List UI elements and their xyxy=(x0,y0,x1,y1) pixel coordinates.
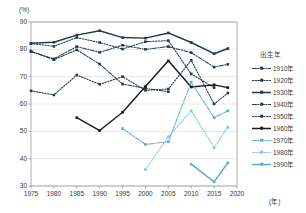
legend-item[interactable]: 1910年 xyxy=(252,62,306,74)
data-point-marker xyxy=(30,90,33,93)
legend-item-label: 1920年 xyxy=(273,76,294,85)
legend-item[interactable]: 1990年 xyxy=(252,158,306,170)
series-1960年 xyxy=(75,60,229,132)
y-tick-label: 80 xyxy=(11,45,27,52)
data-point-marker xyxy=(98,83,101,86)
data-point-marker xyxy=(144,85,147,88)
data-point-marker xyxy=(121,111,124,114)
legend-item[interactable]: 1980年 xyxy=(252,146,306,158)
series-1990年 xyxy=(190,161,229,183)
series-line xyxy=(31,45,228,67)
data-point-marker xyxy=(144,40,147,43)
legend-item[interactable]: 1970年 xyxy=(252,134,306,146)
series-1910年 xyxy=(30,49,170,93)
legend: 出生年 1910年1920年1930年1940年1950年1960年1970年1… xyxy=(252,49,306,170)
x-tick-label: 2020 xyxy=(222,190,252,197)
y-tick-label: 60 xyxy=(11,100,27,107)
data-point-marker xyxy=(190,163,193,166)
data-point-marker xyxy=(227,86,230,89)
data-point-marker xyxy=(144,37,147,40)
data-point-marker xyxy=(213,66,216,69)
data-point-marker xyxy=(167,88,170,91)
y-tick-label: 50 xyxy=(11,127,27,134)
legend-title: 出生年 xyxy=(260,49,306,59)
data-point-marker xyxy=(190,51,193,54)
series-1930年 xyxy=(30,29,229,55)
data-point-marker xyxy=(75,34,78,37)
data-point-marker xyxy=(75,74,78,77)
data-point-marker xyxy=(213,52,216,55)
legend-item-label: 1930年 xyxy=(273,88,294,97)
legend-item-label: 1950年 xyxy=(273,112,294,121)
data-point-marker xyxy=(53,94,56,97)
data-point-marker xyxy=(227,126,230,129)
data-point-marker xyxy=(167,39,170,42)
data-point-marker xyxy=(213,84,216,87)
y-tick-label: 90 xyxy=(11,18,27,25)
data-point-marker xyxy=(227,110,230,113)
data-point-marker xyxy=(121,44,124,47)
data-point-marker xyxy=(190,110,193,113)
data-point-marker xyxy=(227,63,230,66)
data-point-marker xyxy=(75,45,78,48)
legend-swatch-icon xyxy=(252,100,271,109)
y-tick-label: 30 xyxy=(11,182,27,189)
legend-swatch-icon xyxy=(252,148,271,157)
legend-item-label: 1970年 xyxy=(273,136,294,145)
data-point-marker xyxy=(167,90,170,93)
data-point-marker xyxy=(53,45,56,48)
legend-item[interactable]: 1930年 xyxy=(252,86,306,98)
data-point-marker xyxy=(227,47,230,50)
series-line xyxy=(145,111,227,170)
data-point-marker xyxy=(53,58,56,61)
data-point-marker xyxy=(227,161,230,164)
x-axis-unit-label: (年) xyxy=(269,196,280,206)
series-1940年 xyxy=(30,44,229,68)
data-point-marker xyxy=(144,143,147,146)
legend-swatch-icon xyxy=(252,88,271,97)
data-point-marker xyxy=(144,89,147,92)
legend-item-label: 1980年 xyxy=(273,148,294,157)
y-tick-label: 40 xyxy=(11,155,27,162)
data-point-marker xyxy=(75,36,78,39)
legend-rows: 1910年1920年1930年1940年1950年1960年1970年1980年… xyxy=(252,62,306,170)
data-point-marker xyxy=(98,41,101,44)
data-point-marker xyxy=(30,50,33,53)
data-point-marker xyxy=(167,136,170,139)
legend-item-label: 1990年 xyxy=(273,160,294,169)
series-line xyxy=(77,61,228,131)
data-point-marker xyxy=(190,81,193,84)
legend-item[interactable]: 1920年 xyxy=(252,74,306,86)
data-point-marker xyxy=(190,41,193,44)
series-1950年 xyxy=(30,59,229,105)
data-point-marker xyxy=(190,73,193,76)
legend-swatch-icon xyxy=(252,64,271,73)
series-line xyxy=(31,60,228,104)
series-line xyxy=(191,163,228,182)
y-tick-label: 70 xyxy=(11,73,27,80)
data-point-marker xyxy=(121,36,124,39)
legend-item-label: 1910年 xyxy=(273,64,294,73)
data-point-marker xyxy=(213,86,216,89)
legend-swatch-icon xyxy=(252,124,271,133)
legend-item[interactable]: 1950年 xyxy=(252,110,306,122)
data-point-marker xyxy=(167,45,170,48)
data-point-marker xyxy=(213,146,216,149)
data-point-marker xyxy=(121,83,124,86)
legend-item[interactable]: 1940年 xyxy=(252,98,306,110)
data-point-marker xyxy=(121,48,124,51)
data-point-marker xyxy=(53,41,56,44)
legend-swatch-icon xyxy=(252,112,271,121)
data-point-marker xyxy=(98,29,101,32)
data-point-marker xyxy=(30,42,33,45)
data-point-marker xyxy=(167,32,170,35)
data-point-marker xyxy=(121,127,124,130)
legend-item[interactable]: 1960年 xyxy=(252,122,306,134)
series-1970年 xyxy=(121,81,229,146)
line-chart: (%) (年) 出生年 1910年1920年1930年1940年1950年196… xyxy=(0,0,306,213)
data-point-marker xyxy=(144,168,147,171)
y-axis-unit-label: (%) xyxy=(19,6,29,13)
data-point-marker xyxy=(213,103,216,106)
data-point-marker xyxy=(190,86,193,89)
data-point-marker xyxy=(227,92,230,95)
